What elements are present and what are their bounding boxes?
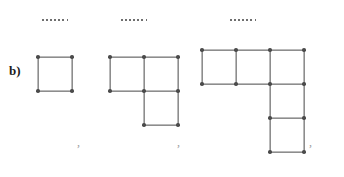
matchstick bbox=[235, 50, 237, 84]
dot-mark bbox=[67, 19, 69, 21]
comma-separator-1: , bbox=[77, 136, 80, 148]
dot-mark bbox=[42, 19, 44, 21]
matchstick-head bbox=[176, 123, 180, 127]
matchstick-head bbox=[142, 55, 146, 59]
matchstick bbox=[202, 83, 236, 85]
dot-mark bbox=[54, 19, 56, 21]
dot-mark bbox=[137, 19, 139, 21]
matchstick bbox=[201, 50, 203, 84]
dot-mark bbox=[141, 19, 143, 21]
matchstick bbox=[269, 50, 271, 84]
matchstick-head bbox=[234, 82, 238, 86]
matchstick bbox=[109, 57, 111, 91]
matchstick bbox=[143, 91, 145, 125]
matchstick bbox=[270, 117, 304, 119]
matchstick bbox=[110, 90, 144, 92]
matchstick-head bbox=[142, 89, 146, 93]
matchstick-head bbox=[36, 89, 40, 93]
matchstick-head bbox=[70, 55, 74, 59]
matchstick-head bbox=[108, 55, 112, 59]
dot-mark bbox=[250, 19, 252, 21]
dot-mark bbox=[133, 19, 135, 21]
part-label-b: b) bbox=[9, 64, 21, 77]
matchstick bbox=[71, 57, 73, 91]
matchstick bbox=[270, 83, 304, 85]
dot-mark bbox=[230, 19, 232, 21]
matchstick-head bbox=[234, 48, 238, 52]
comma-separator-3: , bbox=[309, 136, 312, 148]
matchstick bbox=[110, 56, 144, 58]
matchstick-head bbox=[108, 89, 112, 93]
matchstick-head bbox=[176, 55, 180, 59]
dot-mark bbox=[242, 19, 244, 21]
matchstick bbox=[270, 49, 304, 51]
dot-mark bbox=[121, 19, 123, 21]
matchstick bbox=[37, 57, 39, 91]
matchstick bbox=[236, 83, 270, 85]
matchstick bbox=[303, 84, 305, 118]
matchstick-head bbox=[268, 82, 272, 86]
matchstick-head bbox=[36, 55, 40, 59]
matchstick-head bbox=[200, 82, 204, 86]
matchstick-head bbox=[142, 123, 146, 127]
matchstick bbox=[202, 49, 236, 51]
matchstick-head bbox=[302, 150, 306, 154]
dots-above-term-2 bbox=[121, 19, 147, 21]
matchstick bbox=[177, 57, 179, 91]
matchstick-head bbox=[302, 82, 306, 86]
dot-mark bbox=[125, 19, 127, 21]
matchstick bbox=[303, 118, 305, 152]
matchstick-head bbox=[268, 48, 272, 52]
matchstick-head bbox=[176, 89, 180, 93]
dot-mark bbox=[146, 19, 148, 21]
dot-mark bbox=[58, 19, 60, 21]
dot-mark bbox=[62, 19, 64, 21]
matchstick bbox=[269, 84, 271, 118]
matchstick bbox=[269, 118, 271, 152]
matchstick bbox=[177, 91, 179, 125]
dot-mark bbox=[238, 19, 240, 21]
matchstick bbox=[144, 124, 178, 126]
dots-above-term-3 bbox=[230, 19, 256, 21]
matchstick-head bbox=[268, 116, 272, 120]
matchstick-head bbox=[200, 48, 204, 52]
matchstick bbox=[270, 151, 304, 153]
dot-mark bbox=[234, 19, 236, 21]
matchstick bbox=[236, 49, 270, 51]
comma-separator-2: , bbox=[177, 136, 180, 148]
dot-mark bbox=[50, 19, 52, 21]
figure-canvas: b) ,,, bbox=[0, 0, 344, 177]
matchstick bbox=[144, 90, 178, 92]
matchstick bbox=[303, 50, 305, 84]
dot-mark bbox=[246, 19, 248, 21]
dot-mark bbox=[46, 19, 48, 21]
dot-mark bbox=[255, 19, 257, 21]
matchstick bbox=[38, 90, 72, 92]
dots-above-term-1 bbox=[42, 19, 68, 21]
matchstick-head bbox=[302, 116, 306, 120]
matchstick bbox=[143, 57, 145, 91]
matchstick-head bbox=[302, 48, 306, 52]
matchstick bbox=[144, 56, 178, 58]
matchstick bbox=[38, 56, 72, 58]
dot-mark bbox=[129, 19, 131, 21]
matchstick-head bbox=[268, 150, 272, 154]
matchstick-head bbox=[70, 89, 74, 93]
